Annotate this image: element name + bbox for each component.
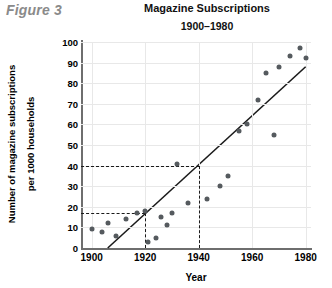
gridline-horizontal (81, 227, 311, 228)
data-point (287, 54, 292, 59)
data-point (159, 215, 164, 220)
gridline-horizontal (81, 42, 311, 43)
data-point (175, 161, 180, 166)
data-point (271, 132, 276, 137)
y-axis-tick-label: 80 (50, 78, 78, 89)
data-point (204, 196, 209, 201)
chart-subtitle: 1900–1980 (92, 20, 322, 32)
y-axis-title: Number of magazine subscriptions per 100… (0, 38, 36, 250)
gridline-horizontal (81, 83, 311, 84)
x-axis-line (81, 248, 312, 250)
gridline-horizontal (81, 104, 311, 105)
gridline-horizontal (81, 124, 311, 125)
y-axis-tick-label: 90 (50, 57, 78, 68)
gridline-vertical (306, 42, 307, 248)
x-axis-tick-label: 1960 (241, 252, 263, 263)
data-point (169, 210, 174, 215)
data-point (135, 210, 140, 215)
data-point (303, 56, 308, 61)
reference-line-horizontal (81, 166, 199, 167)
data-point (298, 46, 303, 51)
plot-area (81, 42, 311, 248)
reference-line-vertical (199, 166, 200, 248)
figure-root: Figure 3 Magazine Subscriptions 1900–198… (0, 0, 332, 288)
x-axis-tick-label: 1920 (134, 252, 156, 263)
gridline-horizontal (81, 186, 311, 187)
y-axis-title-line-1: Number of magazine subscriptions (6, 65, 17, 223)
figure-label: Figure 3 (6, 2, 62, 18)
y-axis-tick-label: 10 (50, 222, 78, 233)
y-axis-tick-label: 40 (50, 160, 78, 171)
y-axis-tick-label: 70 (50, 98, 78, 109)
data-point (164, 223, 169, 228)
y-axis-tick-label: 30 (50, 181, 78, 192)
data-point (185, 200, 190, 205)
chart-title: Magazine Subscriptions (92, 2, 322, 14)
x-axis-tick-label: 1980 (295, 252, 317, 263)
y-axis-title-line-2: per 1000 households (25, 97, 36, 192)
data-point (113, 233, 118, 238)
data-point (89, 227, 94, 232)
y-axis-tick-label: 60 (50, 119, 78, 130)
y-axis-ticks: 0102030405060708090100 (50, 42, 78, 248)
data-point (143, 208, 148, 213)
data-point (255, 97, 260, 102)
x-axis-tick-label: 1940 (188, 252, 210, 263)
data-point (226, 173, 231, 178)
gridline-horizontal (81, 207, 311, 208)
y-axis-tick-label: 100 (50, 37, 78, 48)
x-axis-tick-label: 1900 (81, 252, 103, 263)
data-point (218, 184, 223, 189)
data-point (105, 221, 110, 226)
data-point (236, 128, 241, 133)
gridline-vertical (92, 42, 93, 248)
data-point (263, 70, 268, 75)
data-point (276, 64, 281, 69)
gridline-horizontal (81, 145, 311, 146)
gridline-horizontal (81, 63, 311, 64)
gridline-vertical (252, 42, 253, 248)
data-point (153, 235, 158, 240)
y-axis-tick-label: 50 (50, 140, 78, 151)
y-axis-tick-label: 0 (50, 243, 78, 254)
x-axis-ticks: 19001920194019601980 (81, 252, 312, 268)
data-point (244, 122, 249, 127)
data-point (124, 217, 129, 222)
y-axis-tick-label: 20 (50, 201, 78, 212)
data-point (100, 229, 105, 234)
x-axis-title: Year (80, 272, 312, 283)
data-point (145, 239, 150, 244)
